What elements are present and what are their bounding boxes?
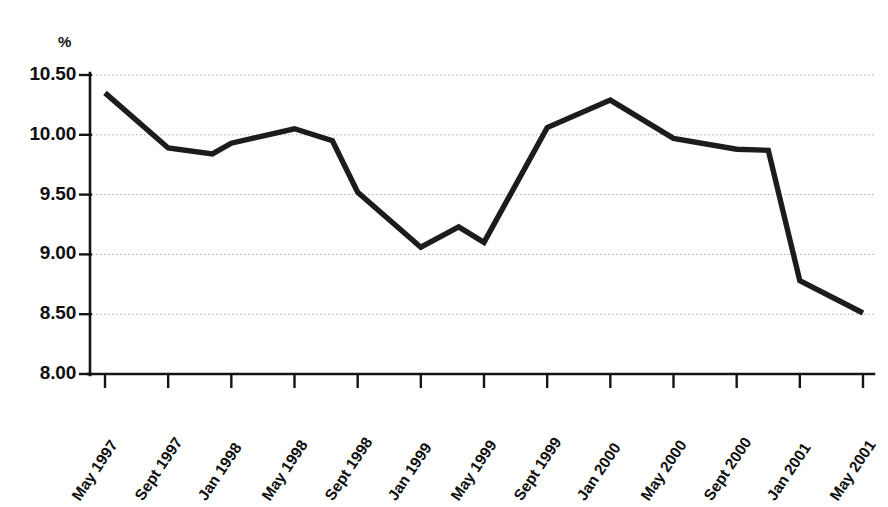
plot-area <box>0 0 888 507</box>
data-series-line <box>105 93 863 313</box>
x-axis-tick-marks <box>105 374 863 388</box>
line-chart: % 10.5010.009.509.008.508.00 May 1997Sep… <box>0 0 888 507</box>
gridlines <box>92 75 874 314</box>
